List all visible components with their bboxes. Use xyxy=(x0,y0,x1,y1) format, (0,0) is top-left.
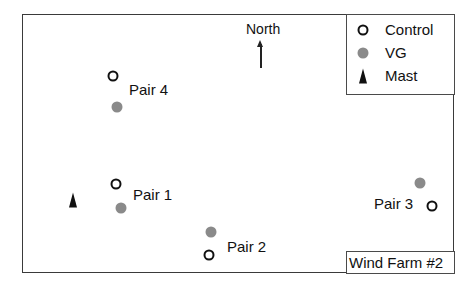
pair-2-control-marker-icon xyxy=(204,250,215,261)
legend-label-control: Control xyxy=(385,21,433,38)
legend-label-vg: VG xyxy=(385,44,407,61)
control-marker-icon xyxy=(358,25,369,36)
vg-marker-icon xyxy=(358,48,369,59)
diagram-title: Wind Farm #2 xyxy=(349,254,443,271)
pair-1-label: Pair 1 xyxy=(133,186,172,203)
legend-item-control: Control xyxy=(347,19,454,41)
pair-4-control-marker-icon xyxy=(108,71,119,82)
mast-marker-icon xyxy=(69,193,77,208)
pair-1-vg-marker-icon xyxy=(116,203,127,214)
pair-3-control-marker-icon xyxy=(427,201,438,212)
north-arrow-icon xyxy=(260,44,262,68)
mast-marker-icon xyxy=(359,69,367,84)
pair-4-label: Pair 4 xyxy=(129,81,168,98)
pair-1-control-marker-icon xyxy=(111,179,122,190)
pair-3-label: Pair 3 xyxy=(374,195,413,212)
pair-2-vg-marker-icon xyxy=(206,227,217,238)
legend-label-mast: Mast xyxy=(385,67,418,84)
legend-item-mast: Mast xyxy=(347,65,454,87)
pair-4-vg-marker-icon xyxy=(112,102,123,113)
north-label: North xyxy=(246,21,280,38)
legend-item-vg: VG xyxy=(347,42,454,64)
legend: Control VG Mast xyxy=(346,14,455,95)
title-box: Wind Farm #2 xyxy=(346,251,455,274)
pair-2-label: Pair 2 xyxy=(227,238,266,255)
pair-3-vg-marker-icon xyxy=(415,178,426,189)
